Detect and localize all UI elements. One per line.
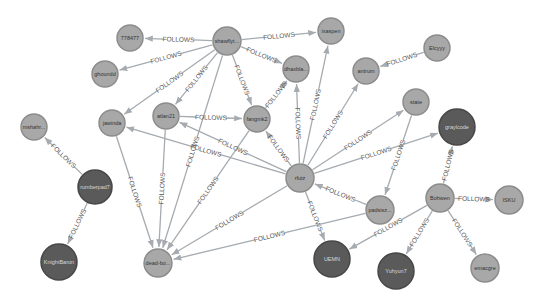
graph-node[interactable]: 778477 [117,25,143,51]
edge-line[interactable] [220,155,285,174]
graph-node[interactable]: mshahr... [21,114,47,140]
edge-follows[interactable]: FOLLOWS [380,51,423,68]
edge-follows[interactable]: FOLLOWS [157,130,166,247]
edge-line[interactable] [145,38,164,39]
edge-line[interactable] [287,161,291,166]
edge-line[interactable] [314,158,362,173]
edge-label: FOLLOWS [127,176,144,209]
edge-follows[interactable]: FOLLOWS [448,211,476,255]
edge-follows[interactable]: FOLLOWS [67,203,87,244]
edge-line[interactable] [226,118,242,119]
edge-follows[interactable]: FOLLOWS [242,31,316,41]
edge-follows[interactable]: FOLLOWS [263,79,288,109]
edge-line[interactable] [470,245,476,254]
graph-node[interactable]: jawinda [99,110,125,136]
edge-line[interactable] [303,119,312,163]
edge-line[interactable] [294,32,316,34]
edge-line[interactable] [74,166,82,174]
edge-line[interactable] [299,138,300,163]
edge-line[interactable] [284,213,365,232]
edge-line[interactable] [119,61,151,70]
edge-follows[interactable]: FOLLOWS [406,211,432,254]
edge-line[interactable] [242,186,287,213]
edge-line[interactable] [174,240,255,259]
edge-follows[interactable]: FOLLOWS [172,186,287,255]
graph-node[interactable]: antrum [353,58,379,84]
graph-node[interactable]: ixaspen [318,18,344,44]
edge-line[interactable] [163,130,165,174]
edge-line[interactable] [180,45,212,54]
graph-node[interactable]: rfutz [286,164,314,192]
edge-line[interactable] [427,211,432,220]
graph-node[interactable]: atlan21 [153,103,179,129]
edge-line[interactable] [242,37,264,39]
edge-label: FOLLOWS [441,148,455,181]
edge-line[interactable] [315,184,327,189]
graph-node[interactable]: graylcode [439,109,475,145]
graph-node[interactable]: rumberpad7 [78,170,112,204]
edge-follows[interactable]: FOLLOWS [241,46,282,65]
edge-line[interactable] [163,166,188,248]
edge-label: FOLLOWS [390,138,407,171]
graph-node[interactable]: Yuhyun7 [378,253,414,289]
graph-node[interactable]: fangmk2 [244,106,270,132]
graph-node[interactable]: KnightBaron [41,244,77,280]
edge-line[interactable] [175,90,187,104]
edge-line[interactable] [139,206,153,247]
edge-line[interactable] [247,94,251,105]
edge-line[interactable] [297,84,298,109]
graph-node[interactable]: ghoundd [92,61,118,87]
edge-line[interactable] [116,136,130,177]
edge-follows[interactable]: FOLLOWS [441,146,455,183]
edge-line[interactable] [159,203,161,247]
edge-line[interactable] [403,115,412,141]
graph-canvas[interactable]: FOLLOWSFOLLOWSFOLLOWSFOLLOWSFOLLOWSFOLLO… [0,0,550,301]
edge-label: FOLLOWS [325,185,358,204]
edge-line[interactable] [371,110,404,132]
edge-line[interactable] [341,84,358,112]
edge-line[interactable] [321,230,325,240]
node-label: emacgre [474,265,495,271]
edge-line[interactable] [84,203,87,210]
edge-line[interactable] [308,137,325,165]
edge-line[interactable] [319,46,328,90]
edge-follows[interactable]: FOLLOWS [145,35,212,43]
edge-line[interactable] [275,61,282,64]
edge-follows[interactable]: FOLLOWS [116,136,153,247]
graph-node[interactable]: dead-bo... [144,249,172,277]
graph-node[interactable]: UEMN [314,241,350,277]
edge-follows[interactable]: FOLLOWS [266,131,291,166]
graph-node[interactable]: emacgre [471,254,499,282]
edge-follows[interactable]: FOLLOWS [385,115,412,195]
edge-follows[interactable]: FOLLOWS [232,55,251,105]
node-label: graylcode [445,124,469,130]
graph-node[interactable]: Bohwen [426,184,454,212]
edge-line[interactable] [354,200,366,205]
edge-follows[interactable]: FOLLOWS [455,195,493,203]
graph-node[interactable]: dhaxbla... [283,56,309,82]
edge-follows[interactable]: FOLLOWS [294,84,302,163]
edge-label: FOLLOWS [157,172,166,205]
edge-line[interactable] [385,169,394,195]
graph-node[interactable]: Elcyyy [424,35,450,61]
edge-follows[interactable]: FOLLOWS [45,138,82,175]
edge-follows[interactable]: FOLLOWS [175,53,217,105]
edge-follows[interactable]: FOLLOWS [306,192,325,240]
edge-line[interactable] [416,52,423,54]
edge-line[interactable] [349,235,375,250]
edge-line[interactable] [126,127,191,146]
graph-node[interactable]: state [403,89,429,115]
edge-line[interactable] [180,116,196,117]
edge-follows[interactable]: FOLLOWS [314,133,438,173]
graph-node[interactable]: shawflyt... [213,27,241,55]
edge-follows[interactable]: FOLLOWS [180,113,242,121]
edge-line[interactable] [167,203,200,250]
graph-node[interactable]: ISKU [495,186,523,214]
edge-line[interactable] [193,40,212,41]
graph-node[interactable]: padsisz... [366,196,394,224]
edge-label: FOLLOWS [195,113,228,121]
edge-line[interactable] [313,148,346,170]
edge-line[interactable] [124,91,157,115]
node-label: KnightBaron [44,259,74,265]
edge-follows[interactable]: FOLLOWS [315,184,366,204]
